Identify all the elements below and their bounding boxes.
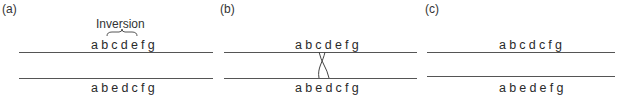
- panel-c-bottom-chromosome: [427, 76, 615, 77]
- panel-c-top-chromosome: [427, 52, 615, 53]
- panel-c-label: (c): [425, 2, 439, 16]
- panel-c-top-sequence: abcdcfg: [499, 38, 565, 52]
- panel-b-bottom-sequence: abedcfg: [295, 81, 362, 95]
- panel-c-bottom-sequence: abedefg: [499, 81, 567, 95]
